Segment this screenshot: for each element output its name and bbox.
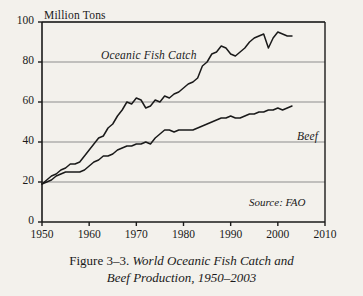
x-tick-label-1950: 1950 bbox=[19, 228, 65, 240]
chart-plot-area: Million Tons 020406080100 19501960197019… bbox=[0, 0, 363, 250]
figure-container: Million Tons 020406080100 19501960197019… bbox=[0, 0, 363, 296]
gridlines bbox=[42, 22, 325, 182]
y-tick-label-0: 0 bbox=[8, 214, 34, 226]
x-tick-label-2010: 2010 bbox=[302, 228, 348, 240]
y-tick-label-40: 40 bbox=[8, 134, 34, 146]
x-tick-label-1990: 1990 bbox=[208, 228, 254, 240]
figure-caption-line-2: Beef Production, 1950–2003 bbox=[0, 269, 363, 286]
x-tick-label-1960: 1960 bbox=[66, 228, 112, 240]
series-label-beef: Beef bbox=[297, 130, 318, 142]
y-tick-label-20: 20 bbox=[8, 174, 34, 186]
chart-svg bbox=[0, 0, 363, 250]
figure-caption: Figure 3–3. World Oceanic Fish Catch and… bbox=[0, 252, 363, 286]
figure-caption-number: Figure 3–3. bbox=[69, 253, 129, 268]
source-note: Source: FAO bbox=[249, 196, 306, 208]
figure-caption-line-1: Figure 3–3. World Oceanic Fish Catch and bbox=[0, 252, 363, 269]
y-tick-label-60: 60 bbox=[8, 94, 34, 106]
x-tick-label-2000: 2000 bbox=[255, 228, 301, 240]
x-tick-label-1980: 1980 bbox=[161, 228, 207, 240]
series-line-beef bbox=[42, 106, 292, 184]
figure-caption-title-part-1: World Oceanic Fish Catch and bbox=[129, 253, 294, 268]
series-label-oceanic-fish-catch: Oceanic Fish Catch bbox=[101, 49, 197, 61]
y-tick-label-100: 100 bbox=[8, 14, 34, 26]
y-tick-label-80: 80 bbox=[8, 54, 34, 66]
x-tick-label-1970: 1970 bbox=[113, 228, 159, 240]
